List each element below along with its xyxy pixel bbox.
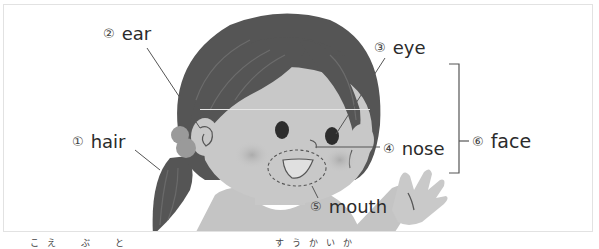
footer-fragment-left: こえ ぶ と	[30, 238, 132, 249]
hand	[392, 169, 448, 225]
label-ear: ②ear	[103, 24, 151, 44]
label-mouth: ⑤mouth	[310, 197, 387, 217]
label-nose: ④nose	[383, 139, 445, 159]
divider-line	[200, 109, 370, 110]
ponytail	[153, 156, 193, 235]
eye-left	[275, 121, 289, 139]
footer-fragment-right: すうかいか	[275, 238, 360, 249]
eye-right	[325, 127, 339, 145]
girl-illustration	[0, 0, 599, 249]
label-face: ⑥face	[472, 131, 531, 152]
face-bracket	[449, 64, 459, 173]
label-eye: ③eye	[374, 38, 425, 58]
label-hair: ①hair	[72, 132, 126, 152]
